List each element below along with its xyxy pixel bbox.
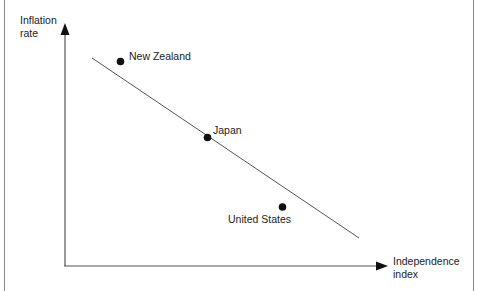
y-axis-arrow-icon bbox=[61, 23, 70, 35]
label-united-states: United States bbox=[228, 213, 291, 226]
x-axis-arrow-icon bbox=[376, 262, 388, 271]
y-axis-label-line1: Inflation bbox=[20, 14, 57, 27]
scatter-diagram bbox=[0, 0, 478, 291]
label-new-zealand: New Zealand bbox=[129, 50, 191, 63]
y-axis-label-line2: rate bbox=[20, 27, 57, 40]
label-japan: Japan bbox=[213, 124, 242, 137]
x-axis-label-line1: Independence bbox=[393, 255, 460, 268]
point-new-zealand bbox=[117, 58, 125, 66]
x-axis-label-line2: index bbox=[393, 268, 460, 281]
point-japan bbox=[204, 134, 212, 142]
trend-line bbox=[92, 58, 359, 238]
x-axis-label: Independence index bbox=[393, 255, 460, 281]
point-united-states bbox=[279, 203, 287, 211]
y-axis-label: Inflation rate bbox=[20, 14, 57, 40]
